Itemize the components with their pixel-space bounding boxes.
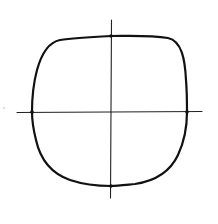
- vertical-axis: [111, 20, 112, 198]
- stray-mark: [3, 107, 5, 109]
- horizontal-axis: [17, 112, 202, 113]
- top-intersection-mark: [109, 34, 113, 38]
- squircle-diagram: [0, 0, 218, 224]
- left-intersection-mark: [30, 110, 34, 114]
- squircle-outline: [32, 36, 187, 186]
- right-intersection-mark: [185, 110, 189, 114]
- bottom-intersection-mark: [109, 184, 113, 188]
- diagram-canvas: Hand-drawn squircle (superellipse) on cr…: [0, 0, 218, 224]
